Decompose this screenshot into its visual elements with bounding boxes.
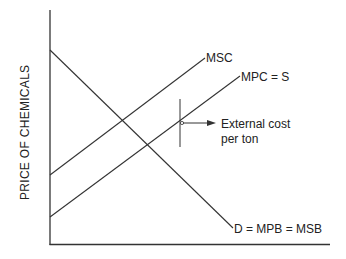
mpc-label: MPC = S: [241, 70, 289, 84]
mpc-curve: [50, 76, 240, 217]
externality-diagram: MSC MPC = S D = MPB = MSB External cost …: [0, 0, 346, 259]
arrowhead-icon: [207, 120, 216, 126]
msc-curve: [50, 58, 205, 175]
demand-curve: [50, 50, 233, 228]
demand-label: D = MPB = MSB: [234, 222, 322, 236]
external-cost-label-line2: per ton: [221, 132, 258, 146]
external-cost-label-line1: External cost: [221, 117, 291, 131]
msc-label: MSC: [206, 51, 233, 65]
y-axis-label: PRICE OF CHEMICALS: [18, 65, 32, 200]
